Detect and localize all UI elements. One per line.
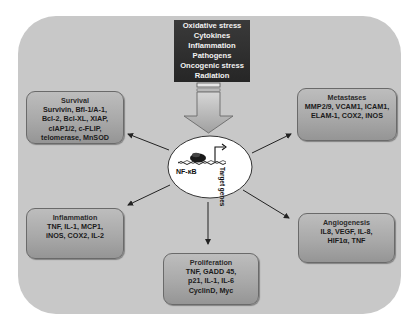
arrow-to-inflammation: [128, 185, 170, 205]
proliferation-line: p21, IL-1, IL-6: [164, 276, 258, 285]
survival-line: Bcl-2, Bcl-XL, XIAP,: [27, 114, 123, 123]
target-genes-label: Target genes: [219, 167, 226, 206]
metastases-line: MMP2/9, VCAM1, ICAM1,: [298, 102, 396, 111]
inflammation-line: iNOS, COX2, IL-2: [27, 231, 123, 240]
metastases-line: ELAM-1, COX2, iNOS: [298, 111, 396, 120]
proliferation-line: CyclinD, Myc: [164, 286, 258, 295]
arrow-to-metastases: [252, 134, 291, 153]
inflammation-line: TNF, IL-1, MCP1,: [27, 222, 123, 231]
inflammation-title: Inflammation: [27, 213, 123, 222]
proliferation-line: TNF, GADD 45,: [164, 267, 258, 276]
survival-line: Survivin, Bfl-1/A-1,: [27, 105, 123, 114]
metastases-title: Metastases: [298, 93, 396, 102]
survival-title: Survival: [27, 96, 123, 105]
survival-line: telomerase, MnSOD: [27, 133, 123, 142]
nfkb-label: NF-κB: [176, 168, 197, 175]
angiogenesis-box: Angiogenesis IL8, VEGF, IL-8, HIF1α, TNF: [298, 213, 395, 263]
big-down-arrow-icon: [184, 83, 233, 133]
angiogenesis-line: IL8, VEGF, IL-8,: [299, 227, 394, 236]
angiogenesis-title: Angiogenesis: [299, 218, 394, 227]
survival-line: cIAP1/2, c-FLIP,: [27, 124, 123, 133]
arrow-to-angiogenesis: [243, 190, 289, 218]
proliferation-box: Proliferation TNF, GADD 45, p21, IL-1, I…: [163, 253, 259, 305]
nfkb-node: [168, 136, 252, 198]
angiogenesis-line: HIF1α, TNF: [299, 236, 394, 245]
proliferation-title: Proliferation: [164, 258, 258, 267]
metastases-box: Metastases MMP2/9, VCAM1, ICAM1, ELAM-1,…: [297, 88, 397, 141]
survival-box: Survival Survivin, Bfl-1/A-1, Bcl-2, Bcl…: [26, 91, 124, 144]
inflammation-box: Inflammation TNF, IL-1, MCP1, iNOS, COX2…: [26, 208, 124, 259]
arrow-to-survival: [128, 134, 169, 150]
